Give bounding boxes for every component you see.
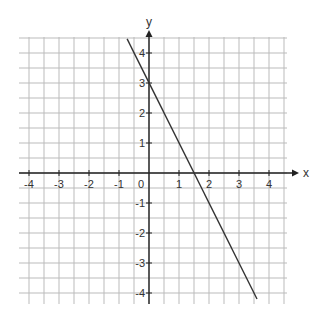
x-tick-label: -4 xyxy=(24,178,34,190)
x-tick-label: -2 xyxy=(84,178,94,190)
y-tick-label: 2 xyxy=(139,107,145,119)
x-tick-label: 1 xyxy=(176,178,182,190)
x-tick-label: -3 xyxy=(54,178,64,190)
y-axis-label: y xyxy=(146,15,152,29)
y-tick-label: 3 xyxy=(139,77,145,89)
y-tick-label: -3 xyxy=(135,257,145,269)
y-tick-label: -4 xyxy=(135,287,145,299)
x-axis-label: x xyxy=(303,166,309,180)
coordinate-plane: -4-3-2-101234-4-3-2-11234 x y xyxy=(0,0,315,317)
line-series xyxy=(127,39,257,299)
y-axis-arrow-icon xyxy=(146,30,153,37)
y-tick-label: 4 xyxy=(139,47,145,59)
y-tick-label: 1 xyxy=(139,137,145,149)
x-tick-label: 0 xyxy=(138,178,144,190)
x-axis-arrow-icon xyxy=(292,170,299,177)
y-tick-label: -1 xyxy=(135,197,145,209)
y-tick-label: -2 xyxy=(135,227,145,239)
x-tick-label: 2 xyxy=(206,178,212,190)
x-tick-label: 4 xyxy=(266,178,272,190)
plotted-line xyxy=(127,39,257,299)
x-tick-label: 3 xyxy=(236,178,242,190)
x-tick-label: -1 xyxy=(114,178,124,190)
